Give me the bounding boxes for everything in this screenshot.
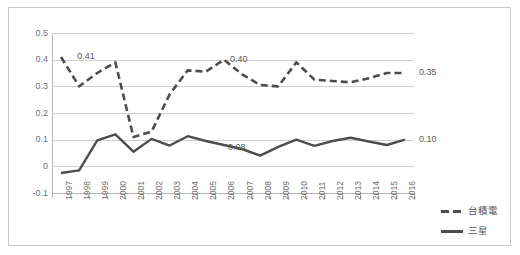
y-tick-label: 0 bbox=[14, 162, 48, 171]
legend-label: 台積電 bbox=[468, 206, 498, 216]
y-tick-label: 0.1 bbox=[14, 135, 48, 144]
chart-frame: 0.50.40.30.20.10-0.1 1997199819992000200… bbox=[8, 7, 511, 246]
data-point-label: 0.08 bbox=[228, 143, 246, 152]
data-point-label: 0.10 bbox=[419, 135, 437, 144]
y-tick-label: 0.4 bbox=[14, 55, 48, 64]
y-tick-label: -0.1 bbox=[14, 189, 48, 198]
x-axis-tick bbox=[52, 194, 53, 198]
legend-label: 三星 bbox=[468, 226, 488, 236]
legend-swatch-solid bbox=[441, 230, 463, 233]
legend-swatch-dashed bbox=[441, 210, 463, 213]
data-point-label: 0.40 bbox=[230, 55, 248, 64]
legend-item[interactable]: 三星 bbox=[441, 224, 488, 238]
series-line-tsmc bbox=[61, 57, 405, 137]
data-point-label: 0.35 bbox=[419, 68, 437, 77]
y-tick-label: 0.2 bbox=[14, 109, 48, 118]
y-axis-labels: 0.50.40.30.20.10-0.1 bbox=[9, 33, 48, 193]
x-axis-labels: 1997199819992000200120022003200420052006… bbox=[52, 199, 414, 239]
y-tick-label: 0.5 bbox=[14, 29, 48, 38]
legend-item[interactable]: 台積電 bbox=[441, 204, 498, 218]
y-tick-label: 0.3 bbox=[14, 82, 48, 91]
chart-legend: 台積電三星 bbox=[441, 204, 513, 244]
series-line-samsung bbox=[61, 134, 405, 173]
data-point-label: 0.41 bbox=[77, 52, 95, 61]
